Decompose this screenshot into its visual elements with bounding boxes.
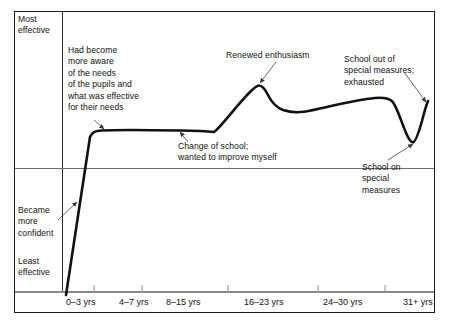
leader-became-more-confident [58, 202, 77, 220]
leader-had-become-aware [94, 120, 104, 129]
leader-school-on-special-measures [388, 144, 413, 160]
annotation-leader-lines [58, 62, 426, 220]
leader-change-of-school [180, 132, 188, 142]
chart-vector-overlay [0, 0, 449, 336]
leader-school-out-of-special-measures [404, 72, 426, 102]
career-effectiveness-chart: Most effective Least effective Became mo… [0, 0, 449, 336]
effectiveness-curve [66, 86, 428, 296]
x-axis-tick-marks [94, 285, 385, 291]
leader-renewed-enthusiasm [260, 62, 276, 83]
